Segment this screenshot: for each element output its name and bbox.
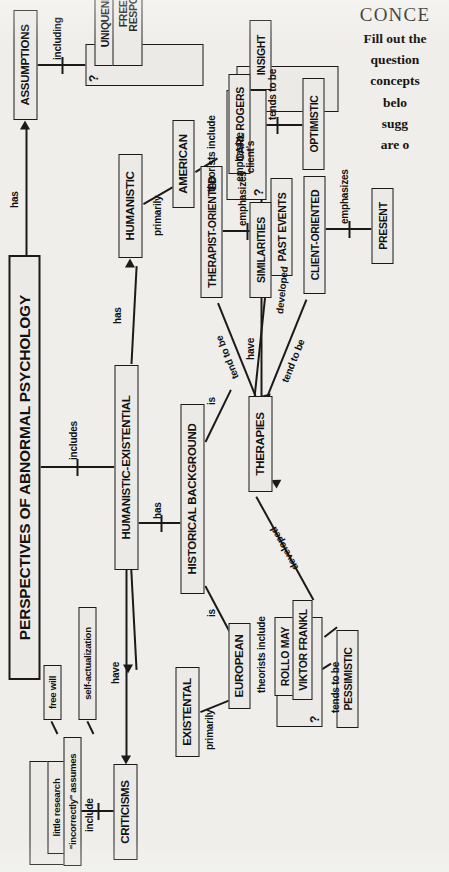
instructions-heading: CONCE xyxy=(295,4,449,26)
link-label-emphasizes-present: emphasizes xyxy=(339,169,350,224)
connector-hue-to-humanistic xyxy=(130,266,137,364)
link-label-have-similarities: have xyxy=(245,338,256,360)
node-historical-background: HISTORICAL BACKGROUND xyxy=(180,404,204,594)
link-label-includes: includes xyxy=(68,421,79,460)
link-label-include: include xyxy=(84,798,95,832)
instruction-line: Fill out the xyxy=(295,32,449,46)
link-label-theorists-include-eu: theorists include xyxy=(256,616,267,693)
link-label-has-assumptions: has xyxy=(9,191,20,208)
node-uniqueness: UNIQUENESS xyxy=(94,0,114,66)
link-label-primarily-am: primarily xyxy=(152,196,163,236)
node-little-research: little research xyxy=(47,761,65,854)
tick-includes xyxy=(76,459,78,476)
node-american: AMERICAN xyxy=(172,120,194,208)
node-client-oriented: CLIENT-ORIENTED xyxy=(303,176,325,294)
link-label-tend-to-be-client: tend to be xyxy=(280,338,307,384)
instruction-line: concepts xyxy=(295,74,449,88)
link-label-has-historical: has xyxy=(152,502,163,519)
instruction-line: belo xyxy=(295,96,449,110)
link-label-primarily-eu: primarily xyxy=(204,710,215,750)
node-assumptions: ASSUMPTIONS xyxy=(13,10,37,120)
link-label-tend-to-be-therapist: tend to be xyxy=(214,334,241,380)
node-humanistic-existential: HUMANISTIC-EXISTENTIAL xyxy=(114,365,138,570)
node-incorrectly-assumes: "incorrectly" assumes xyxy=(63,737,81,866)
connector-hue-to-historical xyxy=(138,523,180,525)
link-label-developed-existential: developed xyxy=(268,525,300,572)
node-criticisms: CRITICISMS xyxy=(113,764,137,860)
node-therapies: THERAPIES xyxy=(248,396,272,492)
instruction-line: sugg xyxy=(295,117,449,131)
node-humanistic: HUMANISTIC xyxy=(118,154,142,258)
instructions-body: Fill out the question concepts belo sugg… xyxy=(295,32,449,152)
map-title-box: PERSPECTIVES OF ABNORMAL PSYCHOLOGY xyxy=(8,255,40,680)
link-label-have-criticisms: have xyxy=(110,662,121,684)
link-label-tends-to-be-rogers: tends to be xyxy=(267,69,278,120)
connector-title-to-assumptions xyxy=(25,127,27,255)
instruction-line: question xyxy=(295,53,449,67)
instruction-line: are o xyxy=(295,138,449,152)
link-label-theorists-include-am: theorists include xyxy=(206,115,217,192)
node-past-events: PAST EVENTS xyxy=(270,178,292,276)
instructions-panel: CONCE Fill out the question concepts bel… xyxy=(295,4,449,159)
connector-to-self-actualization xyxy=(86,721,94,734)
node-freedom-and-responsibility: FREEDOM AND RESPONSIBILITY xyxy=(112,0,142,66)
node-present: PRESENT xyxy=(371,188,393,264)
link-label-has-humanistic: has xyxy=(112,307,123,324)
node-self-actualization: self-actualization xyxy=(78,607,96,720)
link-label-including: including xyxy=(52,17,63,60)
tick-include xyxy=(97,803,99,820)
connector-pessimistic-hook xyxy=(323,626,337,637)
node-european: EUROPEAN xyxy=(228,623,250,709)
node-free-will: free will xyxy=(43,665,61,720)
node-rollo-may: ROLLO MAY xyxy=(274,617,294,696)
node-existential: EXISTENTAL xyxy=(175,667,199,757)
arrow-to-existential xyxy=(123,665,133,674)
link-label-is-american: is xyxy=(206,397,217,405)
link-label-is-european: is xyxy=(206,609,217,617)
link-label-tends-to-be-frankl: tends to be xyxy=(330,662,341,713)
connector-to-free-will xyxy=(50,721,58,734)
node-similarities: SIMILARITIES xyxy=(249,202,271,298)
arrow-to-humanistic xyxy=(125,259,135,268)
arrow-to-assumptions xyxy=(20,121,30,130)
connector-hue-to-existential xyxy=(130,570,137,670)
link-label-emphasize-clients: emphasizeclient's xyxy=(234,122,255,192)
node-viktor-frankl: VIKTOR FRANKL xyxy=(292,600,312,700)
